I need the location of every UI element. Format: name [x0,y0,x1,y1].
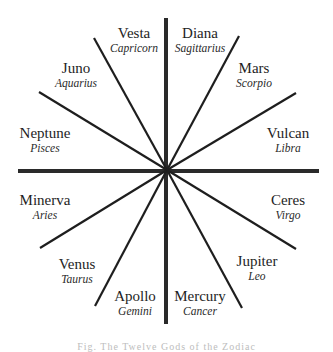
zodiac-sign: Aries [20,210,71,222]
zodiac-sign: Gemini [114,306,156,318]
spoke-vesta-juno [94,38,167,170]
segment-label-diana: Diana Sagittarius [175,26,225,55]
segment-label-vulcan: Vulcan Libra [267,126,309,155]
zodiac-sign: Taurus [59,274,96,286]
segment-label-ceres: Ceres Virgo [271,193,305,222]
god-name: Mars [236,61,272,76]
segment-label-juno: Juno Aquarius [55,61,97,90]
god-name: Juno [55,61,97,76]
segment-label-jupiter: Jupiter Leo [237,254,278,283]
spoke-diana-mars [167,36,239,170]
segment-label-vesta: Vesta Capricorn [110,26,158,55]
zodiac-sign: Cancer [174,306,226,318]
god-name: Diana [175,26,225,41]
god-name: Jupiter [237,254,278,269]
segment-label-mercury: Mercury Cancer [174,289,226,318]
god-name: Apollo [114,289,156,304]
god-name: Venus [59,257,96,272]
god-name: Mercury [174,289,226,304]
god-name: Neptune [20,126,71,141]
zodiac-sign: Scorpio [236,78,272,90]
segment-label-venus: Venus Taurus [59,257,96,286]
zodiac-sign: Libra [267,143,309,155]
god-name: Vulcan [267,126,309,141]
god-name: Ceres [271,193,305,208]
zodiac-sign: Sagittarius [175,43,225,55]
segment-label-apollo: Apollo Gemini [114,289,156,318]
zodiac-sign: Capricorn [110,43,158,55]
zodiac-sign: Leo [237,271,278,283]
god-name: Vesta [110,26,158,41]
segment-label-minerva: Minerva Aries [20,193,71,222]
zodiac-sign: Pisces [20,143,71,155]
god-name: Minerva [20,193,71,208]
zodiac-sign: Aquarius [55,78,97,90]
spoke-venus-apollo [95,170,167,306]
segment-label-mars: Mars Scorpio [236,61,272,90]
figure-caption: Fig. The Twelve Gods of the Zodiac [77,341,256,352]
zodiac-sign: Virgo [271,210,305,222]
segment-label-neptune: Neptune Pisces [20,126,71,155]
